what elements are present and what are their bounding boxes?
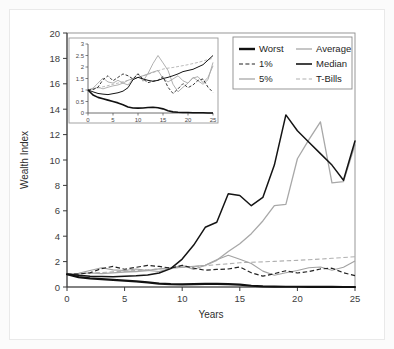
y-tick-label: 4 [55, 231, 60, 242]
y-axis-ticks: 02468101214161820 [49, 28, 67, 293]
inset-y-tick-label: 2.5 [76, 53, 85, 59]
y-tick-label: 18 [49, 53, 60, 64]
y-tick-label: 2 [55, 256, 60, 267]
chart-canvas: 02468101214161820 0510152025 Years Wealt… [0, 0, 394, 349]
y-tick-label: 14 [49, 104, 60, 115]
figure-container: 02468101214161820 0510152025 Years Wealt… [0, 0, 394, 349]
x-tick-label: 25 [350, 293, 361, 304]
y-tick-label: 6 [55, 205, 60, 216]
legend-label-5: 5% [259, 73, 273, 84]
legend-label-median: Median [316, 58, 347, 69]
y-axis-title: Wealth Index [19, 131, 30, 189]
x-tick-label: 5 [122, 293, 127, 304]
y-tick-label: 20 [49, 28, 60, 39]
legend-label-worst: Worst [259, 43, 284, 54]
x-tick-label: 0 [64, 293, 69, 304]
inset-x-tick-label: 25 [210, 117, 217, 123]
x-axis-ticks: 0510152025 [64, 287, 360, 304]
inset-x-tick-label: 20 [185, 117, 192, 123]
inset-chart: 00.511.522.53 0510152025 [69, 38, 218, 123]
x-tick-label: 20 [292, 293, 303, 304]
y-tick-label: 16 [49, 78, 60, 89]
legend: WorstAverage1%Median5%T-Bills [233, 37, 352, 89]
legend-label-average: Average [316, 43, 351, 54]
x-tick-label: 10 [177, 293, 188, 304]
y-tick-label: 0 [55, 282, 60, 293]
inset-y-tick-label: 1.5 [76, 76, 85, 82]
legend-label-t-bills: T-Bills [316, 73, 342, 84]
y-tick-label: 8 [55, 180, 60, 191]
y-tick-label: 10 [49, 155, 60, 166]
inset-x-tick-label: 10 [135, 117, 142, 123]
inset-y-tick-label: 0.5 [76, 99, 85, 105]
x-axis-title: Years [198, 309, 223, 320]
y-tick-label: 12 [49, 129, 60, 140]
x-tick-label: 15 [235, 293, 246, 304]
inset-x-tick-label: 15 [160, 117, 167, 123]
legend-label-1: 1% [259, 58, 273, 69]
